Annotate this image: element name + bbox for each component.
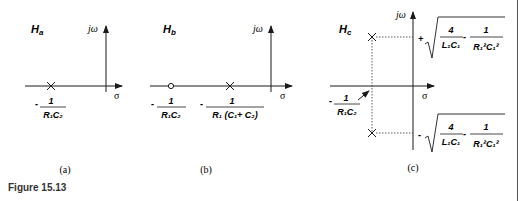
svg-text:-: - bbox=[151, 99, 154, 109]
pole-a-label: - 1 R₁C₂ bbox=[35, 96, 66, 120]
pole-upper-expression: + 4 L₁C₁ - 1 R₁²C₁² bbox=[418, 17, 505, 58]
svg-text:R₁ (C₁+ C₂): R₁ (C₁+ C₂) bbox=[212, 110, 258, 120]
svg-text:-: - bbox=[329, 96, 332, 106]
sigma-axis-label: σ bbox=[422, 90, 428, 101]
jw-axis-label: jω bbox=[86, 23, 98, 34]
real-part-label: - 1 R₁C₂ bbox=[329, 91, 369, 117]
svg-text:R₁C₂: R₁C₂ bbox=[161, 110, 181, 120]
figure-caption: Figure 15.13 bbox=[8, 182, 67, 193]
pointer-arrow-icon bbox=[358, 91, 369, 100]
svg-text:-: - bbox=[200, 99, 203, 109]
panel-b: Hb jω σ - 1 R₁C₂ - 1 R₁ (C₁+ C₂) (b) bbox=[150, 23, 292, 176]
sigma-axis-label: σ bbox=[114, 90, 120, 101]
panel-a: Ha jω σ - 1 R₁C₂ (a) bbox=[25, 23, 122, 176]
svg-text:R₁²C₁²: R₁²C₁² bbox=[473, 139, 499, 149]
svg-text:-: - bbox=[463, 129, 466, 139]
panel-c-label: (c) bbox=[407, 162, 418, 174]
svg-text:1: 1 bbox=[483, 25, 488, 35]
svg-text:1: 1 bbox=[229, 96, 234, 106]
svg-text:+: + bbox=[418, 34, 424, 44]
svg-text:4: 4 bbox=[447, 122, 453, 132]
zero-b-label: - 1 R₁C₂ bbox=[151, 96, 186, 120]
panel-a-label: (a) bbox=[59, 164, 70, 176]
panel-b-label: (b) bbox=[200, 164, 212, 176]
panel-c: Hc jω σ - 1 R₁C₂ + 4 bbox=[329, 9, 505, 174]
svg-text:-: - bbox=[418, 130, 421, 140]
svg-text:4: 4 bbox=[447, 25, 453, 35]
sigma-axis-label: σ bbox=[280, 90, 286, 101]
svg-text:L₁C₁: L₁C₁ bbox=[442, 40, 460, 50]
svg-text:-: - bbox=[35, 99, 38, 109]
svg-text:1: 1 bbox=[48, 96, 53, 106]
svg-text:1: 1 bbox=[483, 122, 488, 132]
pole-b-label: - 1 R₁ (C₁+ C₂) bbox=[200, 96, 264, 120]
jw-axis-label: jω bbox=[394, 9, 406, 20]
svg-text:1: 1 bbox=[168, 96, 173, 106]
zero-circle-icon bbox=[168, 83, 173, 88]
svg-text:R₁C₂: R₁C₂ bbox=[43, 110, 63, 120]
pole-x-icon bbox=[368, 33, 376, 41]
pole-lower-expression: - 4 L₁C₁ - 1 R₁²C₁² bbox=[418, 114, 505, 152]
pole-zero-diagram: Ha jω σ - 1 R₁C₂ (a) Hb jω σ - 1 bbox=[0, 0, 532, 201]
svg-text:L₁C₁: L₁C₁ bbox=[442, 137, 460, 147]
panel-b-title: Hb bbox=[163, 23, 176, 37]
panel-a-title: Ha bbox=[31, 23, 44, 37]
svg-text:1: 1 bbox=[343, 93, 348, 103]
svg-text:R₁²C₁²: R₁²C₁² bbox=[473, 42, 499, 52]
svg-text:R₁C₂: R₁C₂ bbox=[337, 107, 357, 117]
svg-text:-: - bbox=[463, 32, 466, 42]
panel-c-title: Hc bbox=[339, 23, 352, 37]
jw-axis-label: jω bbox=[251, 23, 263, 34]
